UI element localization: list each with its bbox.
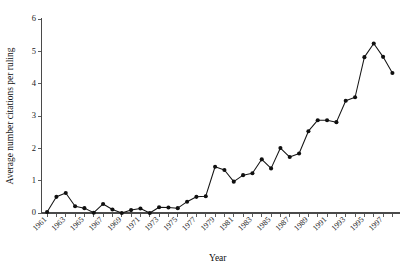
- y-tick-label: 4: [32, 78, 37, 88]
- y-tick-label: 1: [32, 175, 36, 185]
- data-point-marker: [129, 208, 133, 212]
- x-tick-label: 1993: [329, 215, 347, 233]
- data-point-marker: [110, 207, 114, 211]
- data-point-marker: [250, 171, 254, 175]
- data-point-marker: [222, 168, 226, 172]
- x-tick-label: 1971: [124, 215, 142, 233]
- plot-area: [45, 42, 394, 216]
- data-point-marker: [316, 118, 320, 122]
- data-point-marker: [204, 194, 208, 198]
- data-point-marker: [381, 55, 385, 59]
- x-tick-label: 1981: [217, 215, 235, 233]
- x-tick-label: 1991: [311, 215, 329, 233]
- data-point-marker: [148, 211, 152, 215]
- data-point-marker: [372, 42, 376, 46]
- y-tick-label: 2: [32, 143, 36, 153]
- y-tick-label: 0: [32, 207, 36, 217]
- data-point-marker: [194, 195, 198, 199]
- x-tick-label: 1967: [87, 215, 105, 233]
- data-point-marker: [260, 157, 264, 161]
- x-tick-label: 1973: [143, 215, 161, 233]
- data-point-marker: [176, 206, 180, 210]
- data-point-marker: [232, 180, 236, 184]
- x-tick-label: 1985: [255, 215, 273, 233]
- y-tick-label: 3: [32, 110, 36, 120]
- x-axis: 1961196319651967196919711973197519771979…: [31, 213, 400, 233]
- data-point-marker: [138, 206, 142, 210]
- x-tick-label: 1975: [161, 215, 179, 233]
- y-axis: 0123456: [32, 13, 42, 217]
- x-tick-label: 1979: [199, 215, 217, 233]
- data-point-marker: [54, 195, 58, 199]
- data-point-marker: [64, 191, 68, 195]
- y-axis-title: Average number citations per ruling: [5, 47, 15, 184]
- x-tick-label: 1989: [292, 215, 310, 233]
- x-tick-label: 1969: [105, 215, 123, 233]
- x-tick-label: 1987: [273, 215, 291, 233]
- x-tick-label: 1961: [31, 215, 49, 233]
- data-point-marker: [157, 205, 161, 209]
- x-tick-label: 1965: [68, 215, 86, 233]
- data-point-marker: [325, 118, 329, 122]
- data-point-marker: [306, 129, 310, 133]
- x-tick-label: 1977: [180, 215, 198, 233]
- data-point-marker: [269, 166, 273, 170]
- x-tick-label: 1983: [236, 215, 254, 233]
- x-tick-label: 1995: [348, 215, 366, 233]
- x-tick-label: 1963: [50, 215, 68, 233]
- data-point-marker: [390, 71, 394, 75]
- data-point-marker: [278, 146, 282, 150]
- y-tick-label: 5: [32, 46, 36, 56]
- data-series-line: [47, 44, 392, 213]
- data-point-marker: [45, 210, 49, 214]
- data-point-marker: [101, 202, 105, 206]
- data-point-marker: [213, 165, 217, 169]
- data-point-marker: [353, 95, 357, 99]
- data-point-marker: [334, 120, 338, 124]
- data-point-marker: [82, 206, 86, 210]
- x-axis-title: Year: [209, 253, 227, 263]
- data-point-marker: [344, 99, 348, 103]
- y-tick-label: 6: [32, 13, 36, 23]
- x-tick-label: 1997: [367, 215, 385, 233]
- data-point-marker: [120, 211, 124, 215]
- citations-per-ruling-line-chart: 0123456 19611963196519671969197119731975…: [0, 0, 410, 268]
- data-point-marker: [92, 211, 96, 215]
- data-point-marker: [73, 204, 77, 208]
- data-point-marker: [166, 205, 170, 209]
- data-point-marker: [362, 55, 366, 59]
- chart-figure: 0123456 19611963196519671969197119731975…: [0, 0, 410, 268]
- data-point-marker: [297, 151, 301, 155]
- data-point-marker: [185, 200, 189, 204]
- data-point-marker: [241, 173, 245, 177]
- data-point-marker: [288, 155, 292, 159]
